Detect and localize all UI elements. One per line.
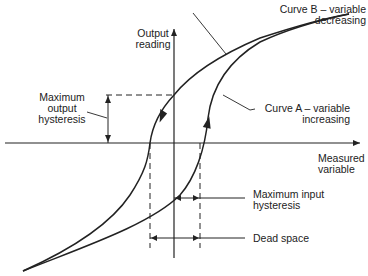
x-axis-label: Measured variable — [318, 153, 368, 175]
curve-b-label: Curve B – variable decreasing — [180, 4, 366, 26]
curve-b-direction-arrow — [156, 109, 168, 124]
input-hysteresis-label-line: hysteresis — [253, 200, 363, 211]
x-axis-label-line: variable — [318, 164, 368, 175]
dead-space-label: Dead space — [253, 233, 353, 244]
curve-b-label-line: decreasing — [180, 15, 366, 26]
dead-space-label-line: Dead space — [253, 233, 353, 244]
y-axis-label: Output reading — [131, 28, 175, 50]
y-axis-label-line: reading — [131, 39, 175, 50]
output-hysteresis-label-line: hysteresis — [32, 114, 92, 125]
curve-a-label: Curve A – variable increasing — [230, 103, 350, 125]
curve-a-label-line: increasing — [230, 114, 350, 125]
max-output-hysteresis-label: Maximum output hysteresis — [32, 92, 92, 125]
max-input-hysteresis-label: Maximum input hysteresis — [253, 189, 363, 211]
